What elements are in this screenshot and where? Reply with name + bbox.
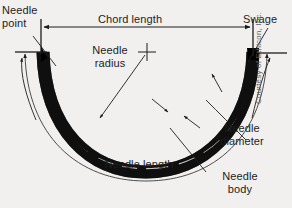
label-needle-length: Needle length (85, 158, 193, 171)
label-needle-radius: Needle radius (84, 44, 136, 69)
figure-container: Needle point Chord length Swage Needle r… (0, 0, 292, 208)
label-chord-length: Chord length (82, 13, 178, 26)
label-swage: Swage (243, 13, 291, 26)
label-needle-body: Needle body (200, 170, 280, 195)
label-needle-diameter: Needle diameter (200, 122, 284, 147)
credit-text: Courtesy of Ethicon, Inc. (254, 8, 263, 104)
needle-radius-crosshair (138, 43, 156, 61)
label-needle-point: Needle point (2, 4, 66, 29)
